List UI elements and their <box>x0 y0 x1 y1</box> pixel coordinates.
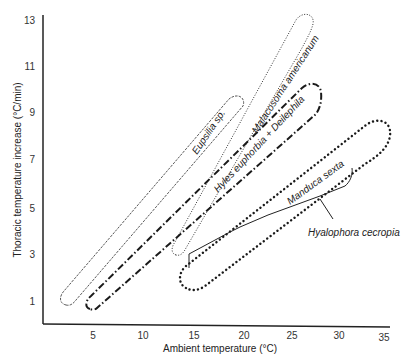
envelope-manduca <box>180 121 390 290</box>
y-tick: 9 <box>29 107 35 118</box>
x-tick: 15 <box>188 330 200 341</box>
hyalophora-pointer <box>320 199 333 219</box>
label-eupsilia: Eupsilia sp. <box>190 108 228 157</box>
x-tick: 10 <box>137 330 149 341</box>
y-tick: 5 <box>29 203 35 214</box>
x-tick: 5 <box>90 330 96 341</box>
y-tick: 7 <box>29 154 35 165</box>
y-tick: 13 <box>24 15 36 26</box>
y-tick: 3 <box>29 249 35 260</box>
label-hyles: Hyles euphorbia + Deilephila <box>211 93 306 194</box>
x-tick: 25 <box>286 330 298 341</box>
y-tick: 1 <box>29 296 35 307</box>
y-axis-label: Thoracic temperature increase (°C/min) <box>12 82 23 257</box>
x-axis <box>43 324 390 327</box>
label-hyalophora: Hyalophora cecropia <box>308 227 400 238</box>
y-tick: 11 <box>25 61 36 72</box>
x-axis-label: Ambient temperature (°C) <box>163 343 277 354</box>
x-tick: 20 <box>238 330 250 341</box>
envelope-hyalophora <box>189 168 352 268</box>
x-tick: 30 <box>333 330 345 341</box>
x-tick: 35 <box>378 332 390 343</box>
thermal-envelope-chart: 13 11 9 7 5 3 1 5 10 15 20 25 30 35 Ambi… <box>0 0 404 359</box>
